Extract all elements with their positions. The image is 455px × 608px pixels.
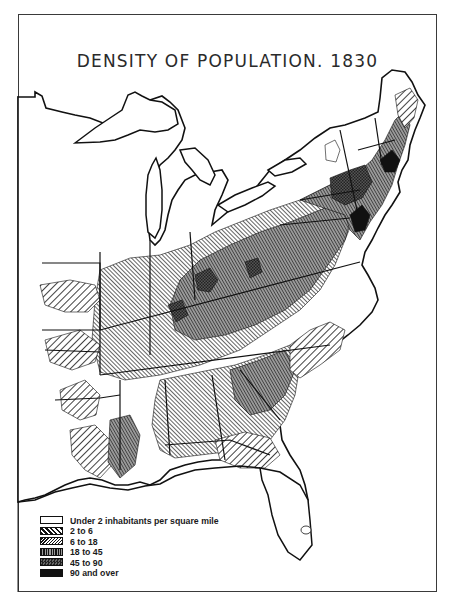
legend-label: 45 to 90: [70, 557, 103, 568]
swatch-vertical-lines-icon: [40, 548, 63, 556]
swatch-solid-icon: [40, 569, 63, 577]
legend-label: 2 to 6: [70, 525, 93, 536]
lake-okeechobee: [301, 526, 311, 534]
legend-item-90-and-over: 90 and over: [40, 568, 232, 579]
swatch-crosshatch-icon: [40, 558, 63, 566]
swatch-wide-hatch-icon: [40, 527, 63, 535]
legend-label: 6 to 18: [70, 536, 98, 547]
legend-label: 18 to 45: [70, 546, 103, 557]
legend-item-18-to-45: 18 to 45: [40, 547, 232, 558]
legend-item-2-to-6: 2 to 6: [40, 526, 232, 537]
legend-item-45-to-90: 45 to 90: [40, 557, 232, 568]
map-legend: Under 2 inhabitants per square mile 2 to…: [40, 515, 232, 578]
legend-item-under-2: Under 2 inhabitants per square mile: [40, 515, 232, 526]
legend-item-6-to-18: 6 to 18: [40, 536, 232, 547]
swatch-blank-icon: [40, 516, 63, 524]
legend-label: Under 2 inhabitants per square mile: [70, 515, 219, 526]
swatch-fine-hatch-icon: [40, 537, 63, 545]
legend-label: 90 and over: [70, 567, 119, 578]
